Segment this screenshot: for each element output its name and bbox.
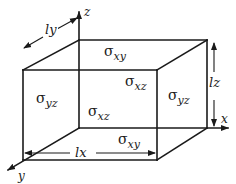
cube-edge-bottom-right-diagonal bbox=[157, 128, 207, 160]
stress-label-front-face: σxz bbox=[88, 104, 110, 118]
y-axis-label: y bbox=[18, 170, 25, 182]
y-axis bbox=[8, 128, 79, 170]
ly-dimension-arrow-left bbox=[24, 37, 43, 48]
ly-dimension-label: ly bbox=[44, 23, 58, 36]
stress-label-bottom-face: σxy bbox=[118, 132, 140, 146]
ly-dimension-arrow-right bbox=[57, 18, 77, 29]
lz-dimension-label: lz bbox=[208, 76, 221, 89]
stress-cube-diagram: z x y ly lz lx σxy σxz σyz σxz σyz σxy bbox=[0, 0, 236, 184]
cube-edge-top-right-diagonal bbox=[157, 40, 207, 70]
stress-label-back-face: σxz bbox=[125, 74, 147, 88]
stress-label-top-face: σxy bbox=[104, 44, 126, 58]
lx-dimension-label: lx bbox=[74, 146, 88, 159]
x-axis-label: x bbox=[221, 113, 228, 125]
z-axis-label: z bbox=[84, 6, 90, 18]
stress-label-left-face: σyz bbox=[36, 91, 58, 105]
stress-label-right-face: σyz bbox=[168, 88, 190, 102]
cube-edge-top-left-diagonal bbox=[23, 40, 79, 70]
